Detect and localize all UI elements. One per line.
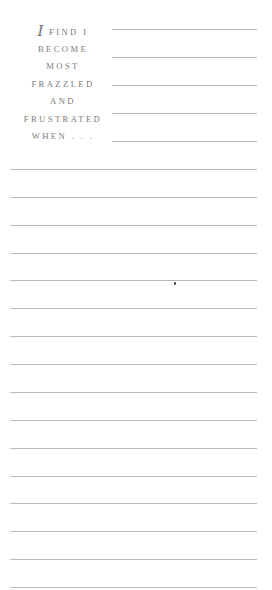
writing-line-full[interactable] [11, 197, 257, 198]
writing-line-full[interactable] [11, 225, 257, 226]
ink-speck [174, 282, 176, 285]
prompt-line-6: FRUSTRATED [0, 111, 126, 129]
writing-line-full[interactable] [11, 336, 257, 337]
writing-line-full[interactable] [11, 476, 257, 477]
prompt-line-1: I FIND I [0, 23, 126, 41]
writing-line-full[interactable] [11, 308, 257, 309]
prompt-line-4: FRAZZLED [0, 76, 126, 94]
prompt-line-2: BECOME [0, 41, 126, 59]
writing-line-short[interactable] [112, 113, 257, 114]
writing-line-full[interactable] [11, 448, 257, 449]
writing-line-full[interactable] [11, 420, 257, 421]
writing-line-full[interactable] [11, 253, 257, 254]
writing-line-full[interactable] [11, 392, 257, 393]
writing-line-full[interactable] [11, 587, 257, 588]
writing-line-full[interactable] [11, 169, 257, 170]
writing-line-full[interactable] [11, 531, 257, 532]
writing-line-short[interactable] [112, 85, 257, 86]
writing-line-short[interactable] [112, 29, 257, 30]
writing-line-full[interactable] [11, 280, 257, 281]
writing-line-short[interactable] [112, 141, 257, 142]
writing-line-short[interactable] [112, 57, 257, 58]
journal-page: I FIND I BECOME MOST FRAZZLED AND FRUSTR… [0, 0, 272, 590]
writing-line-full[interactable] [11, 559, 257, 560]
prompt-text-1: FIND I [44, 27, 88, 37]
prompt-line-3: MOST [0, 58, 126, 76]
prompt-line-7: WHEN . . . [0, 128, 126, 146]
prompt-line-5: AND [0, 93, 126, 111]
writing-line-full[interactable] [11, 364, 257, 365]
writing-line-full[interactable] [11, 503, 257, 504]
journal-prompt: I FIND I BECOME MOST FRAZZLED AND FRUSTR… [0, 23, 126, 146]
